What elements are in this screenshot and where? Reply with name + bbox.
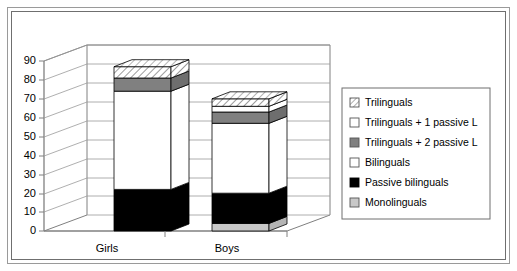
y-axis-tick-labels: 90 80 70 60 50 40 30 20 10 0 [24, 54, 36, 236]
y-tick-label: 40 [24, 149, 36, 161]
bar-segment-trilinguals [212, 99, 269, 107]
y-tick-label: 20 [24, 187, 36, 199]
stacked-column-chart: 90 80 70 60 50 40 30 20 10 0 [12, 12, 503, 257]
y-tick-label: 0 [30, 224, 36, 236]
y-tick-label: 60 [24, 111, 36, 123]
y-tick-label: 10 [24, 205, 36, 217]
y-tick-label: 70 [24, 92, 36, 104]
legend-item-trilinguals-1-passive[interactable]: Trilinguals + 1 passive L [350, 116, 478, 128]
legend-swatch-black-icon [350, 178, 359, 187]
y-tick-label: 30 [24, 168, 36, 180]
legend-swatch-hatched-icon [350, 98, 359, 107]
y-tick-label: 90 [24, 54, 36, 66]
x-tick-label-girls: Girls [96, 242, 119, 254]
bar-segment-passive-bilinguals [212, 193, 269, 223]
bar-side-passive-bilinguals [171, 182, 189, 231]
bar-boys[interactable] [212, 92, 287, 231]
bar-girls[interactable] [114, 60, 189, 231]
legend: Trilinguals Trilinguals + 1 passive L Tr… [342, 88, 490, 219]
legend-label: Trilinguals [365, 96, 412, 108]
bar-segment-trilinguals-2-passive [212, 112, 269, 123]
bar-side-bilinguals [171, 84, 189, 189]
y-axis-ticks [39, 61, 44, 231]
legend-label: Trilinguals + 2 passive L [365, 136, 478, 148]
x-axis: Girls Boys [96, 231, 287, 254]
chart-area: 90 80 70 60 50 40 30 20 10 0 [12, 12, 505, 259]
legend-item-trilinguals[interactable]: Trilinguals [350, 96, 412, 108]
legend-label: Bilinguals [365, 156, 410, 168]
x-tick-label-boys: Boys [215, 242, 240, 254]
legend-item-passive-bilinguals[interactable]: Passive bilinguals [350, 176, 448, 188]
legend-swatch-white-icon [350, 118, 359, 127]
figure-outer-frame: 90 80 70 60 50 40 30 20 10 0 [7, 7, 510, 264]
bar-segment-passive-bilinguals [114, 189, 171, 231]
legend-item-trilinguals-2-passive[interactable]: Trilinguals + 2 passive L [350, 136, 478, 148]
bar-segment-monolinguals [212, 223, 269, 231]
bar-segment-trilinguals-1-passive [212, 106, 269, 112]
bar-segment-trilinguals-2-passive [114, 78, 171, 91]
legend-swatch-white-icon [350, 158, 359, 167]
bar-side-bilinguals [269, 116, 287, 193]
legend-label: Monolinguals [365, 196, 427, 208]
legend-swatch-lightgray-icon [350, 198, 359, 207]
bar-segment-bilinguals [212, 123, 269, 193]
bar-segment-bilinguals [114, 91, 171, 189]
bar-segment-trilinguals [114, 67, 171, 78]
y-tick-label: 50 [24, 130, 36, 142]
figure-inner-frame: 90 80 70 60 50 40 30 20 10 0 [11, 11, 506, 260]
legend-label: Passive bilinguals [365, 176, 448, 188]
legend-label: Trilinguals + 1 passive L [365, 116, 478, 128]
legend-item-bilinguals[interactable]: Bilinguals [350, 156, 410, 168]
legend-swatch-darkgray-icon [350, 138, 359, 147]
y-tick-label: 80 [24, 73, 36, 85]
